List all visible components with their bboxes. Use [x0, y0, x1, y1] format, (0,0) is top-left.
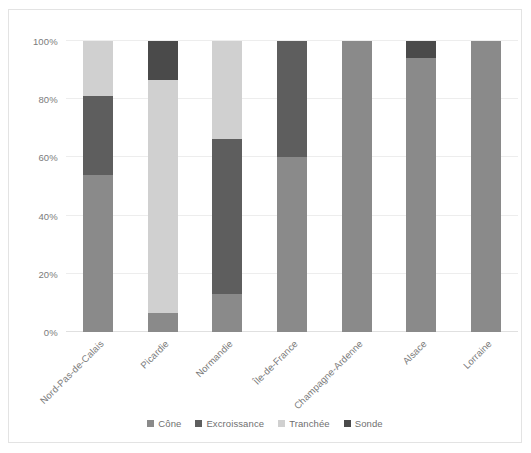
bar-segment[interactable] — [277, 157, 307, 332]
bar-slot — [195, 41, 260, 332]
legend-item[interactable]: Tranchée — [278, 418, 330, 429]
x-axis-label-slot: Normandie — [195, 332, 260, 412]
legend-swatch-icon — [344, 420, 351, 427]
bar-segment[interactable] — [148, 313, 178, 332]
bar-segment[interactable] — [212, 294, 242, 332]
stacked-bar[interactable] — [406, 41, 436, 332]
x-axis-label-slot: Alsace — [389, 332, 454, 412]
bar-segment[interactable] — [406, 58, 436, 332]
bar-slot — [324, 41, 389, 332]
bar-slot — [389, 41, 454, 332]
legend-item[interactable]: Cône — [147, 418, 181, 429]
bar-segment[interactable] — [406, 41, 436, 58]
legend-label: Excroissance — [206, 418, 264, 429]
bar-segment[interactable] — [83, 41, 113, 96]
bar-segment[interactable] — [212, 139, 242, 295]
legend-label: Sonde — [355, 418, 383, 429]
bar-segment[interactable] — [277, 41, 307, 157]
x-axis-tick-label: Lorraine — [460, 338, 493, 371]
stacked-bar[interactable] — [148, 41, 178, 332]
bar-segment[interactable] — [83, 175, 113, 332]
legend-swatch-icon — [195, 420, 202, 427]
bar-segment[interactable] — [342, 41, 372, 332]
stacked-bar[interactable] — [212, 41, 242, 332]
legend-swatch-icon — [278, 420, 285, 427]
legend-item[interactable]: Sonde — [344, 418, 383, 429]
legend-label: Tranchée — [289, 418, 330, 429]
y-axis-tick-label: 60% — [38, 152, 58, 163]
x-axis-label-slot: Champagne-Ardenne — [324, 332, 389, 412]
bar-slot — [66, 41, 131, 332]
x-axis: Nord-Pas-de-CalaisPicardieNormandieÎle-d… — [66, 332, 518, 412]
stacked-bar[interactable] — [342, 41, 372, 332]
x-axis-tick-label: Nord-Pas-de-Calais — [38, 338, 106, 406]
x-axis-label-slot: Picardie — [131, 332, 196, 412]
y-axis-tick-label: 100% — [33, 36, 58, 47]
bar-segment[interactable] — [212, 41, 242, 138]
x-axis-tick-label: Normandie — [194, 338, 235, 379]
bar-segment[interactable] — [148, 80, 178, 313]
stacked-bar[interactable] — [471, 41, 501, 332]
bar-segment[interactable] — [148, 41, 178, 80]
stacked-bar[interactable] — [277, 41, 307, 332]
chart-legend: CôneExcroissanceTranchéeSonde — [9, 418, 521, 429]
bar-slot — [131, 41, 196, 332]
y-axis-tick-label: 40% — [38, 210, 58, 221]
y-axis: 0%20%40%60%80%100% — [17, 41, 63, 332]
y-axis-tick-label: 0% — [44, 327, 58, 338]
bar-slot — [260, 41, 325, 332]
bar-slot — [453, 41, 518, 332]
x-axis-tick-label: Alsace — [401, 338, 429, 366]
legend-item[interactable]: Excroissance — [195, 418, 264, 429]
x-axis-label-slot: Île-de-France — [260, 332, 325, 412]
legend-label: Cône — [158, 418, 181, 429]
plot-area — [66, 41, 518, 332]
chart-container: 0%20%40%60%80%100% Nord-Pas-de-CalaisPic… — [0, 0, 531, 453]
legend-swatch-icon — [147, 420, 154, 427]
bar-segment[interactable] — [83, 96, 113, 175]
x-axis-label-slot: Lorraine — [453, 332, 518, 412]
y-axis-tick-label: 20% — [38, 268, 58, 279]
chart-frame: 0%20%40%60%80%100% Nord-Pas-de-CalaisPic… — [8, 9, 522, 443]
x-axis-label-slot: Nord-Pas-de-Calais — [66, 332, 131, 412]
y-axis-tick-label: 80% — [38, 94, 58, 105]
stacked-bar[interactable] — [83, 41, 113, 332]
bar-segment[interactable] — [471, 41, 501, 332]
x-axis-tick-label: Picardie — [138, 338, 171, 371]
